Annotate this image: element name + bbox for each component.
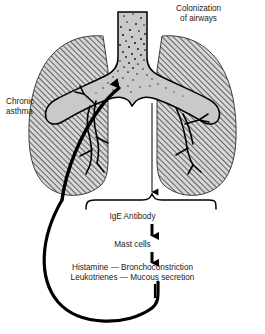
mast-cells-label: Mast cells (0, 240, 265, 250)
colonization-label-line1: Colonization (176, 4, 221, 13)
mediator-label-line2: Leukotrienes — Mucous secretion (0, 273, 265, 283)
ige-antibody-label: IgE Antibody (0, 212, 265, 222)
diagram-canvas (0, 0, 265, 334)
mediators-label: Histamine — Bronchoconstriction Leukotri… (0, 263, 265, 283)
colonization-label-line2: of airways (180, 14, 217, 23)
colonization-label: Colonization of airways (176, 4, 221, 24)
mediator-label-line1: Histamine — Bronchoconstriction (0, 263, 265, 273)
chronic-asthma-label: Chronic asthma (6, 97, 34, 117)
chronic-asthma-label-line1: Chronic (6, 97, 34, 106)
chronic-asthma-label-line2: asthma (6, 107, 33, 116)
asthma-pathogenesis-diagram: Colonization of airways /* position firs… (0, 0, 265, 334)
cascade-brace (86, 194, 216, 209)
